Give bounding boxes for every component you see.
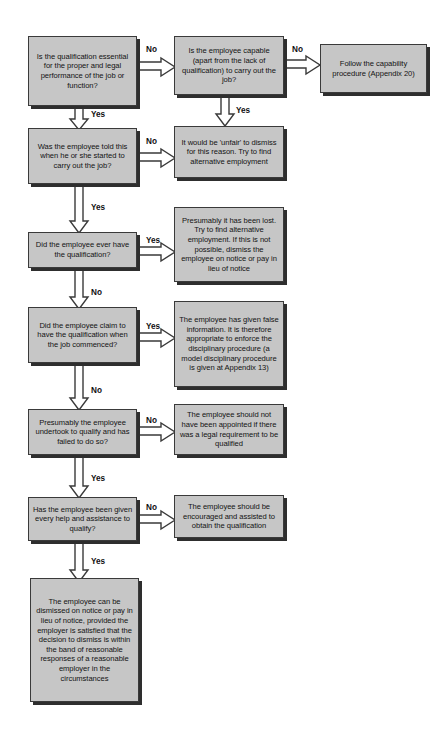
arrow-q5-to-r4 xyxy=(137,329,177,355)
node-text: Did the employee claim to have the quali… xyxy=(32,321,133,350)
node-text: Follow the capability procedure (Appendi… xyxy=(324,59,423,78)
arrow-q1-to-q2 xyxy=(137,58,177,84)
arrow-q3-to-r2 xyxy=(137,149,177,175)
edge-label-q6-yes: Yes xyxy=(91,474,105,483)
node-encouraged-and-assisted[interactable]: The employee should be encouraged and as… xyxy=(174,495,284,538)
node-employee-told[interactable]: Was the employee told this when he or sh… xyxy=(28,128,137,184)
edge-label-q2-yes: Yes xyxy=(236,106,250,115)
node-claimed-qualification[interactable]: Did the employee claim to have the quali… xyxy=(28,307,137,363)
edge-label-q4-yes: Yes xyxy=(146,236,160,245)
edge-label-q7-yes: Yes xyxy=(91,557,105,566)
node-text: Is the qualification essential for the p… xyxy=(32,52,133,90)
node-text: The employee has given false information… xyxy=(178,315,280,373)
node-text: The employee can be dismissed on notice … xyxy=(34,597,135,683)
node-should-not-have-been-appointed[interactable]: The employee should not have been appoin… xyxy=(174,404,284,455)
node-text: The employee should be encouraged and as… xyxy=(178,502,280,531)
node-employee-capable[interactable]: Is the employee capable (apart from the … xyxy=(174,36,284,95)
node-text: Was the employee told this when he or sh… xyxy=(32,142,133,171)
node-unfair-to-dismiss[interactable]: It would be 'unfair' to dismiss for this… xyxy=(174,126,284,178)
flowchart-canvas: No No Yes Yes No Yes Yes No Yes No No Ye… xyxy=(0,0,446,737)
edge-label-q3-no: No xyxy=(146,137,157,146)
edge-label-q1-no: No xyxy=(146,45,157,54)
node-false-information[interactable]: The employee has given false information… xyxy=(174,301,284,387)
node-text: Presumably it has been lost. Try to find… xyxy=(178,216,280,274)
arrow-q4-to-r3 xyxy=(137,243,177,269)
arrow-q7-to-r6 xyxy=(137,511,177,537)
arrow-q6-to-r5 xyxy=(137,423,177,449)
node-undertook-to-qualify[interactable]: Presumably the employee undertook to qua… xyxy=(28,409,137,455)
node-qualification-essential[interactable]: Is the qualification essential for the p… xyxy=(28,36,137,106)
node-text: Has the employee been given every help a… xyxy=(32,505,133,534)
node-text: Is the employee capable (apart from the … xyxy=(178,46,280,84)
edge-label-q3-yes: Yes xyxy=(91,203,105,212)
edge-label-q5-yes: Yes xyxy=(146,322,160,331)
node-text: Presumably the employee undertook to qua… xyxy=(32,418,133,447)
node-ever-had-qualification[interactable]: Did the employee ever have the qualifica… xyxy=(28,232,137,268)
node-given-help-and-assistance[interactable]: Has the employee been given every help a… xyxy=(28,497,137,541)
edge-label-q6-no: No xyxy=(146,416,157,425)
node-final-dismissal-outcome[interactable]: The employee can be dismissed on notice … xyxy=(30,578,139,702)
node-follow-capability-procedure[interactable]: Follow the capability procedure (Appendi… xyxy=(320,44,427,93)
node-text: It would be 'unfair' to dismiss for this… xyxy=(178,138,280,167)
arrow-q2-to-r1 xyxy=(284,56,324,82)
node-qualification-lost[interactable]: Presumably it has been lost. Try to find… xyxy=(174,207,284,282)
edge-label-q1-yes: Yes xyxy=(91,110,105,119)
edge-label-q2-no: No xyxy=(292,45,303,54)
node-text: Did the employee ever have the qualifica… xyxy=(32,240,133,259)
edge-label-q4-no: No xyxy=(91,288,102,297)
edge-label-q5-no: No xyxy=(91,386,102,395)
node-text: The employee should not have been appoin… xyxy=(178,410,280,448)
edge-label-q7-no: No xyxy=(146,503,157,512)
